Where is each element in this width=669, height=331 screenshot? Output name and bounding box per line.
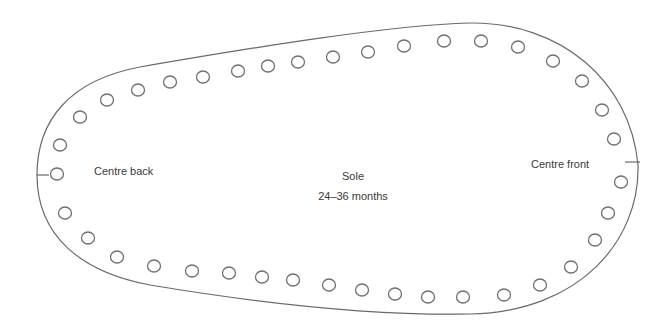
- lacing-hole: [74, 111, 87, 123]
- lacing-hole: [389, 288, 402, 300]
- lacing-hole: [608, 133, 621, 145]
- lacing-hole: [589, 234, 602, 246]
- lacing-hole: [398, 40, 411, 52]
- centre-front-label: Centre front: [531, 158, 589, 170]
- lacing-hole: [232, 65, 245, 77]
- lacing-hole: [422, 291, 435, 303]
- lacing-hole: [596, 104, 609, 116]
- lacing-hole: [534, 279, 547, 291]
- lacing-hole: [186, 265, 199, 277]
- size-label: 24–36 months: [318, 190, 388, 202]
- lacing-hole: [323, 279, 336, 291]
- lacing-hole: [356, 284, 369, 296]
- lacing-hole: [615, 176, 628, 188]
- lacing-hole: [512, 41, 525, 53]
- piece-title: Sole: [342, 170, 364, 182]
- lacing-hole: [475, 35, 488, 47]
- lacing-hole: [148, 260, 161, 272]
- lacing-hole: [132, 84, 145, 96]
- lacing-hole: [292, 56, 305, 68]
- lacing-hole: [197, 71, 210, 83]
- lacing-hole: [164, 76, 177, 88]
- lacing-hole: [262, 60, 275, 72]
- centre-back-label: Centre back: [94, 165, 153, 177]
- lacing-hole: [457, 291, 470, 303]
- lacing-hole: [565, 261, 578, 273]
- lacing-hole: [362, 46, 375, 58]
- lacing-hole: [256, 271, 269, 283]
- lacing-hole: [51, 168, 64, 180]
- lacing-hole: [111, 251, 124, 263]
- lacing-hole: [223, 267, 236, 279]
- lacing-hole: [82, 232, 95, 244]
- lacing-hole: [54, 139, 67, 151]
- lacing-hole: [101, 94, 114, 106]
- lacing-hole: [327, 51, 340, 63]
- lacing-hole: [547, 55, 560, 67]
- lacing-hole: [438, 35, 451, 47]
- lacing-hole: [602, 207, 615, 219]
- lacing-hole: [287, 274, 300, 286]
- lacing-hole: [59, 207, 72, 219]
- lacing-hole: [576, 75, 589, 87]
- lacing-hole: [498, 289, 511, 301]
